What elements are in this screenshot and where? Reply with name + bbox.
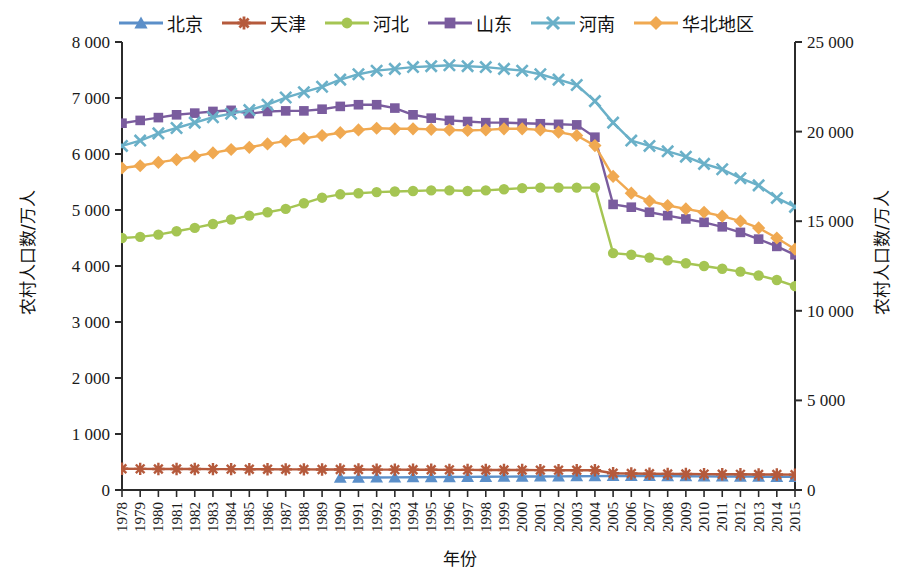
x-axis-tick-label: 2014 [769, 502, 785, 533]
y-axis-right-tick-label: 20 000 [807, 123, 854, 142]
axis-frame [122, 42, 795, 490]
y-axis-left: 01 0002 0003 0004 0005 0006 0007 0008 00… [72, 33, 122, 500]
y-axis-right-tick-label: 15 000 [807, 212, 854, 231]
x-axis-tick-label: 1990 [332, 502, 348, 532]
x-axis-tick-label: 1994 [405, 502, 421, 533]
x-axis-tick-label: 1998 [478, 502, 494, 532]
series-line [122, 128, 795, 249]
x-axis-tick-label: 2009 [678, 502, 694, 532]
x-axis-tick-label: 2013 [751, 502, 767, 532]
x-axis-tick-label: 1993 [387, 502, 403, 532]
x-axis-tick-label: 2011 [714, 502, 730, 531]
x-axis-tick-label: 2010 [696, 502, 712, 532]
x-axis-tick-label: 1987 [278, 502, 294, 533]
x-axis-tick-label: 1995 [423, 502, 439, 532]
y-axis-left-tick-label: 6 000 [72, 145, 110, 164]
series-line [122, 65, 795, 207]
x-axis-tick-label: 2008 [660, 502, 676, 532]
x-axis-tick-label: 2003 [569, 502, 585, 532]
chart-figure: 北京 天津 河北 山东 河南 华北地区 01 0002 0003 0004 00… [0, 0, 920, 587]
x-axis-tick-label: 1999 [496, 502, 512, 532]
x-axis-title: 年份 [410, 545, 510, 570]
x-axis-tick-label: 1984 [223, 502, 239, 533]
x-axis-tick-label: 2001 [532, 502, 548, 532]
x-axis-tick-label: 1996 [441, 502, 457, 533]
series-山东 [117, 100, 800, 260]
x-axis-tick-label: 2000 [514, 502, 530, 532]
x-axis-tick-label: 1992 [369, 502, 385, 532]
x-axis-tick-label: 2004 [587, 502, 603, 533]
y-axis-left-tick-label: 0 [102, 481, 111, 500]
y-axis-left-tick-label: 7 000 [72, 89, 110, 108]
series-line [122, 188, 795, 287]
x-axis-tick-label: 2012 [732, 502, 748, 532]
series-line [122, 469, 795, 475]
series-华北地区 [115, 122, 801, 256]
series-河北 [117, 182, 800, 291]
plot-area: 01 0002 0003 0004 0005 0006 0007 0008 00… [0, 0, 920, 587]
x-axis-tick-label: 1979 [132, 502, 148, 532]
y-axis-left-title: 农村人口数/万人 [14, 163, 39, 343]
x-axis-tick-label: 1980 [150, 502, 166, 532]
x-axis-tick-label: 1986 [260, 502, 276, 533]
y-axis-left-tick-label: 2 000 [72, 369, 110, 388]
x-axis-tick-label: 2005 [605, 502, 621, 532]
x-axis-tick-label: 2006 [623, 502, 639, 533]
y-axis-left-tick-label: 1 000 [72, 425, 110, 444]
x-axis-tick-label: 1982 [187, 502, 203, 532]
x-axis-tick-label: 1981 [169, 502, 185, 532]
y-axis-left-tick-label: 4 000 [72, 257, 110, 276]
x-axis-tick-label: 1978 [114, 502, 130, 532]
series-line [122, 105, 795, 255]
x-axis-tick-label: 1997 [460, 502, 476, 533]
x-axis-tick-label: 1988 [296, 502, 312, 532]
x-axis-tick-label: 1983 [205, 502, 221, 532]
y-axis-left-tick-label: 3 000 [72, 313, 110, 332]
y-axis-right-tick-label: 25 000 [807, 33, 854, 52]
x-axis-tick-label: 1985 [241, 502, 257, 532]
y-axis-left-tick-label: 5 000 [72, 201, 110, 220]
y-axis-right-tick-label: 10 000 [807, 302, 854, 321]
x-axis-tick-label: 2002 [551, 502, 567, 532]
x-axis: 1978197919801981198219831984198519861987… [114, 490, 803, 532]
x-axis-tick-label: 2015 [787, 502, 803, 532]
y-axis-right: 05 00010 00015 00020 00025 000 [795, 33, 854, 500]
y-axis-left-tick-label: 8 000 [72, 33, 110, 52]
x-axis-tick-label: 2007 [641, 502, 657, 533]
series-北京 [334, 470, 802, 483]
y-axis-right-tick-label: 5 000 [807, 391, 845, 410]
y-axis-right-tick-label: 0 [807, 481, 816, 500]
y-axis-right-title: 农村人口数/万人 [868, 163, 893, 343]
x-axis-tick-label: 1989 [314, 502, 330, 532]
x-axis-tick-label: 1991 [350, 502, 366, 532]
